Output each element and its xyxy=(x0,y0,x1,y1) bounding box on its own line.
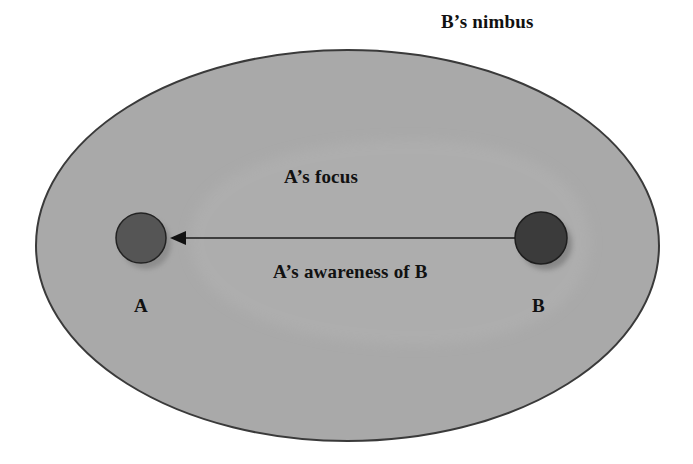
node-a xyxy=(116,213,166,263)
nimbus-label: B’s nimbus xyxy=(441,12,534,31)
node-a-label: A xyxy=(134,296,148,315)
node-b-label: B xyxy=(532,296,545,315)
awareness-label: A’s awareness of B xyxy=(273,262,428,281)
awareness-diagram xyxy=(0,0,693,464)
node-b xyxy=(515,212,567,264)
focus-label: A’s focus xyxy=(284,167,358,186)
